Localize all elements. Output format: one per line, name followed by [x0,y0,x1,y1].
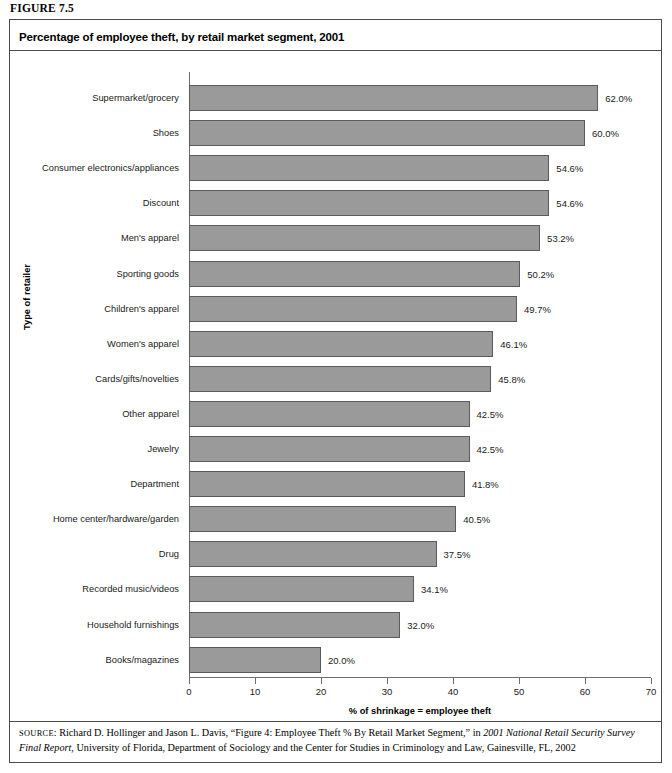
category-label: Discount [143,198,179,208]
bar [189,190,549,216]
category-label-wrap: Discount [1,190,179,216]
category-label-wrap: Sporting goods [1,261,179,287]
x-axis-line [189,677,651,678]
bar-value-label: 40.5% [463,514,490,525]
bar [189,155,549,181]
bar-value-label: 41.8% [472,479,499,490]
bar-value-label: 62.0% [605,93,632,104]
category-label-wrap: Consumer electronics/appliances [1,155,179,181]
bar-row: Cards/gifts/novelties45.8% [189,366,651,392]
x-axis-tick [189,678,190,684]
bar [189,331,493,357]
bar-row: Discount54.6% [189,190,651,216]
bar-value-label: 42.5% [477,408,504,419]
bar [189,471,465,497]
category-label-wrap: Women's apparel [1,331,179,357]
bar-row: Books/magazines20.0% [189,647,651,673]
bar-value-label: 37.5% [444,549,471,560]
source-text-part-1: : Richard D. Hollinger and Jason L. Davi… [54,727,483,738]
x-axis-tick-label: 40 [448,686,459,697]
bar-row: Sporting goods50.2% [189,261,651,287]
plot-area: Supermarket/grocery62.0%Shoes60.0%Consum… [189,72,651,678]
source-divider [10,721,661,722]
category-label-wrap: Jewelry [1,436,179,462]
x-axis-tick [519,678,520,684]
category-label-wrap: Books/magazines [1,647,179,673]
category-label-wrap: Shoes [1,120,179,146]
category-label: Books/magazines [106,655,179,665]
category-label: Men's apparel [121,233,179,243]
category-label: Shoes [153,128,179,138]
category-label: Home center/hardware/garden [53,514,179,524]
bar [189,576,414,602]
chart-title: Percentage of employee theft, by retail … [19,31,344,43]
bar-row: Drug37.5% [189,541,651,567]
bar-value-label: 20.0% [328,654,355,665]
category-label-wrap: Department [1,471,179,497]
source-prefix-label: SOURCE [19,729,54,738]
bar-row: Department41.8% [189,471,651,497]
x-axis-tick-label: 20 [316,686,327,697]
bar [189,85,598,111]
category-label-wrap: Other apparel [1,401,179,427]
figure-label: FIGURE 7.5 [10,2,74,14]
bar-value-label: 50.2% [527,268,554,279]
bar-value-label: 54.6% [556,163,583,174]
bar-value-label: 49.7% [524,303,551,314]
x-axis-title: % of shrinkage = employee theft [349,706,491,716]
bar-row: Home center/hardware/garden40.5% [189,506,651,532]
category-label: Other apparel [122,409,179,419]
category-label-wrap: Drug [1,541,179,567]
x-axis-tick-label: 10 [250,686,261,697]
bar [189,261,520,287]
bar-row: Other apparel42.5% [189,401,651,427]
bar [189,506,456,532]
bar-value-label: 54.6% [556,198,583,209]
bar [189,612,400,638]
bar [189,647,321,673]
bar-value-label: 60.0% [592,128,619,139]
category-label-wrap: Children's apparel [1,296,179,322]
category-label: Recorded music/videos [82,584,179,594]
bar-value-label: 34.1% [421,584,448,595]
x-axis-tick-label: 30 [382,686,393,697]
x-axis-tick [651,678,652,684]
category-label-wrap: Cards/gifts/novelties [1,366,179,392]
bar [189,541,437,567]
source-note: SOURCE: Richard D. Hollinger and Jason L… [19,726,651,755]
category-label: Department [130,479,179,489]
category-label: Drug [159,549,179,559]
bar-row: Household furnishings32.0% [189,612,651,638]
bar [189,296,517,322]
x-axis-tick-label: 60 [580,686,591,697]
x-axis-tick [255,678,256,684]
bar-row: Men's apparel53.2% [189,225,651,251]
category-label-wrap: Home center/hardware/garden [1,506,179,532]
bar-value-label: 45.8% [498,373,525,384]
bar-row: Children's apparel49.7% [189,296,651,322]
category-label: Cards/gifts/novelties [95,374,179,384]
bar-value-label: 53.2% [547,233,574,244]
bar-value-label: 42.5% [477,444,504,455]
bar-row: Women's apparel46.1% [189,331,651,357]
x-axis-tick [585,678,586,684]
bar-value-label: 46.1% [500,338,527,349]
x-axis-tick-label: 0 [186,686,191,697]
category-label: Household furnishings [87,620,179,630]
category-label-wrap: Men's apparel [1,225,179,251]
bar-row: Recorded music/videos34.1% [189,576,651,602]
category-label: Children's apparel [104,304,179,314]
bar [189,401,470,427]
source-text-part-2: , University of Florida, Department of S… [71,742,575,753]
x-axis-tick-label: 50 [514,686,525,697]
category-label: Jewelry [147,444,179,454]
x-axis-tick [453,678,454,684]
bar [189,366,491,392]
category-label-wrap: Recorded music/videos [1,576,179,602]
bar-value-label: 32.0% [407,619,434,630]
x-axis-tick [387,678,388,684]
bar-row: Supermarket/grocery62.0% [189,85,651,111]
category-label: Consumer electronics/appliances [42,163,179,173]
bar-row: Consumer electronics/appliances54.6% [189,155,651,181]
category-label: Women's apparel [107,339,179,349]
